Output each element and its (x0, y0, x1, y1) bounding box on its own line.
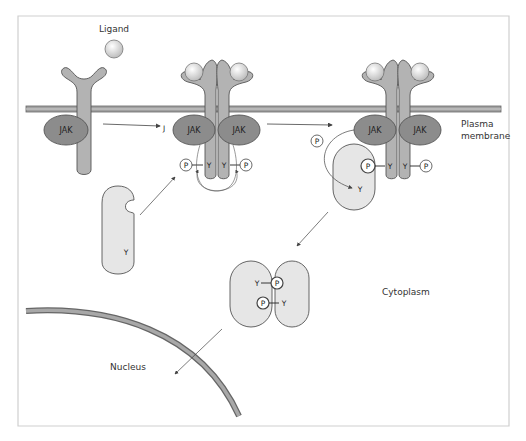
svg-text:JAK: JAK (187, 126, 202, 135)
svg-text:Y: Y (387, 162, 393, 171)
svg-text:P: P (315, 137, 320, 146)
arrow-dimerization (103, 124, 160, 126)
plasma-membrane (26, 106, 501, 112)
free-stat: Y (102, 186, 134, 274)
receptor-dimer-2: JAK JAK P Y Y P P Y (311, 60, 441, 210)
free-ligand (105, 40, 123, 58)
svg-text:JAK: JAK (59, 126, 74, 135)
arrow-stat-dimerize (297, 212, 328, 246)
diagram-canvas: Ligand JAK J JAK JAK P Y Y P (0, 0, 526, 441)
svg-text:JAK: JAK (232, 126, 247, 135)
svg-text:JAK: JAK (413, 126, 428, 135)
unbound-receptor: JAK (44, 68, 106, 175)
ligand-label: Ligand (99, 24, 129, 34)
stray-mark: J (162, 124, 165, 133)
nucleus-label: Nucleus (110, 362, 146, 372)
svg-text:Y: Y (357, 185, 363, 194)
arrow-stat-recruit (267, 124, 332, 125)
svg-text:P: P (366, 162, 371, 171)
svg-text:P: P (244, 161, 249, 170)
svg-text:P: P (261, 299, 266, 308)
arrow-stat-binding (140, 177, 175, 215)
svg-text:Y: Y (402, 162, 408, 171)
plasma-membrane-label-1: Plasma (461, 119, 493, 129)
arrow-nuclear-import (175, 329, 222, 374)
svg-text:P: P (184, 161, 189, 170)
stat-docked (333, 144, 375, 210)
svg-text:Y: Y (281, 299, 287, 308)
stat-dimer: Y P P Y (230, 261, 309, 327)
svg-text:JAK: JAK (368, 126, 383, 135)
svg-text:P: P (424, 162, 429, 171)
receptor-dimer-1: JAK JAK P Y Y P (173, 60, 260, 191)
plasma-membrane-label-2: membrane (461, 131, 511, 141)
svg-text:P: P (275, 279, 280, 288)
cytoplasm-label: Cytoplasm (382, 287, 430, 297)
svg-text:Y: Y (254, 279, 260, 288)
svg-text:Y: Y (221, 161, 227, 170)
svg-text:Y: Y (123, 248, 129, 257)
svg-text:Y: Y (206, 161, 212, 170)
